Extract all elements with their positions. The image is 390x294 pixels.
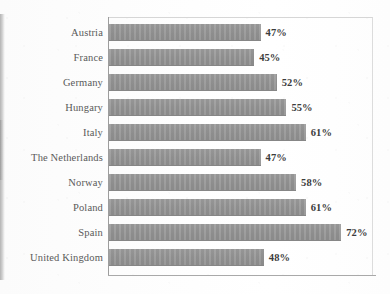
bar <box>109 99 286 116</box>
bar-row: Poland61% <box>0 195 390 220</box>
bar-track: 47% <box>109 149 390 166</box>
bar-row: Germany52% <box>0 70 390 95</box>
bar-value-label: 55% <box>291 102 312 113</box>
category-label: France <box>0 52 103 63</box>
bar-track: 61% <box>109 124 390 141</box>
bar <box>109 49 254 66</box>
bar-row: Hungary55% <box>0 95 390 120</box>
bar-value-label: 61% <box>311 202 332 213</box>
bar-row: United Kingdom48% <box>0 245 390 270</box>
bar <box>109 149 261 166</box>
bar <box>109 174 296 191</box>
bar-value-label: 52% <box>282 77 303 88</box>
bar <box>109 249 264 266</box>
x-axis-line <box>108 275 376 276</box>
bar-track: 58% <box>109 174 390 191</box>
bar-value-label: 72% <box>346 227 367 238</box>
bar-value-label: 48% <box>269 252 290 263</box>
category-label: Hungary <box>0 102 103 113</box>
category-label: United Kingdom <box>0 252 103 263</box>
bar-track: 72% <box>109 224 390 241</box>
category-label: The Netherlands <box>0 152 103 163</box>
category-label: Norway <box>0 177 103 188</box>
bar <box>109 199 306 216</box>
bar-track: 52% <box>109 74 390 91</box>
bar-value-label: 47% <box>266 27 287 38</box>
bar-value-label: 61% <box>311 127 332 138</box>
category-label: Spain <box>0 227 103 238</box>
category-label: Italy <box>0 127 103 138</box>
bar-row: Italy61% <box>0 120 390 145</box>
bar-chart: Austria47%France45%Germany52%Hungary55%I… <box>0 20 390 270</box>
bar-track: 48% <box>109 249 390 266</box>
bar-row: Norway58% <box>0 170 390 195</box>
bar-row: Spain72% <box>0 220 390 245</box>
bar-row: The Netherlands47% <box>0 145 390 170</box>
bar <box>109 24 261 41</box>
bar <box>109 124 306 141</box>
bar-row: France45% <box>0 45 390 70</box>
bar-track: 47% <box>109 24 390 41</box>
bar-value-label: 45% <box>259 52 280 63</box>
bar <box>109 74 277 91</box>
bar-value-label: 47% <box>266 152 287 163</box>
bar <box>109 224 341 241</box>
bar-row: Austria47% <box>0 20 390 45</box>
category-label: Poland <box>0 202 103 213</box>
bar-track: 45% <box>109 49 390 66</box>
bar-track: 55% <box>109 99 390 116</box>
bar-track: 61% <box>109 199 390 216</box>
category-label: Austria <box>0 27 103 38</box>
bar-value-label: 58% <box>301 177 322 188</box>
category-label: Germany <box>0 77 103 88</box>
